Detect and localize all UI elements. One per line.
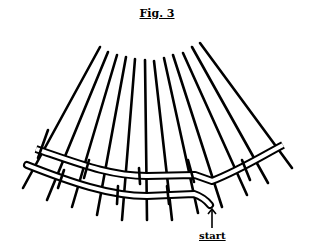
basket-weave-diagram (0, 0, 314, 251)
up-arrow-icon (208, 209, 216, 228)
start-label: start (199, 230, 226, 241)
weaver-upper (36, 145, 283, 181)
